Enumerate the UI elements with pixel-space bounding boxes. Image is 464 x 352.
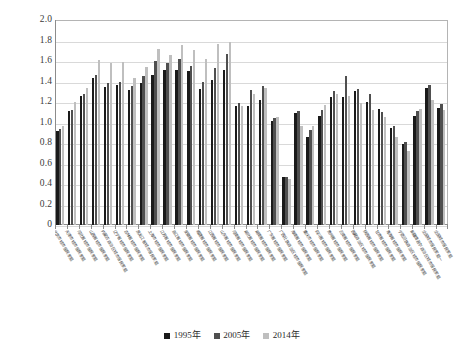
y-tick-label: 1.6 <box>6 56 52 65</box>
bar-group <box>210 20 222 225</box>
y-tick-label: 1.8 <box>6 36 52 45</box>
legend-swatch <box>214 333 220 339</box>
bar <box>86 88 88 225</box>
bar-group <box>317 20 329 225</box>
bar <box>157 49 159 225</box>
bar <box>122 62 124 225</box>
y-tick-label: 1.4 <box>6 77 52 86</box>
bar-group <box>246 20 258 225</box>
bar <box>264 88 266 225</box>
y-tick-label: 1.0 <box>6 118 52 127</box>
bar-group <box>126 20 138 225</box>
y-axis-tick-labels: 2.01.81.61.41.21.00.80.60.40.20 <box>0 0 52 352</box>
bar <box>74 102 76 225</box>
bar-group <box>365 20 377 225</box>
bar-group <box>353 20 365 225</box>
bar <box>384 117 386 225</box>
x-axis-category-labels: 北京市城市居民家庭天津市城市居民家庭河北省城市居民家庭山西省城市居民家庭内蒙古自… <box>55 229 455 324</box>
bar-group <box>400 20 412 225</box>
y-tick-label: 2.0 <box>6 15 52 24</box>
bar <box>253 94 255 225</box>
bar-group <box>293 20 305 225</box>
bar <box>324 105 326 225</box>
bar <box>288 179 290 225</box>
bar-group <box>222 20 234 225</box>
bar-group <box>79 20 91 225</box>
y-tick-label: 0 <box>6 220 52 229</box>
bar-chart: 2.01.81.61.41.21.00.80.60.40.20 北京市城市居民家… <box>0 0 464 352</box>
bar <box>312 126 314 225</box>
y-tick-label: 0.8 <box>6 138 52 147</box>
bar <box>348 96 350 225</box>
bar-group <box>174 20 186 225</box>
bar <box>407 151 409 225</box>
bar <box>229 42 231 225</box>
bar-group <box>424 20 436 225</box>
y-tick-label: 0.4 <box>6 179 52 188</box>
legend-item: 2005年 <box>214 331 251 340</box>
bar <box>193 50 195 225</box>
bar-group <box>269 20 281 225</box>
bar <box>181 45 183 225</box>
bar <box>133 78 135 225</box>
bar-group <box>55 20 67 225</box>
bar-group <box>91 20 103 225</box>
bar-group <box>388 20 400 225</box>
bar-group <box>198 20 210 225</box>
bar <box>62 126 64 225</box>
chart-legend: 1995年2005年2014年 <box>0 331 464 340</box>
legend-item: 2014年 <box>263 331 300 340</box>
bar-group <box>234 20 246 225</box>
bar <box>217 44 219 225</box>
bar <box>300 126 302 225</box>
bar-group <box>436 20 448 225</box>
bar-group <box>67 20 79 225</box>
bar <box>205 59 207 225</box>
legend-label: 2014年 <box>273 331 300 340</box>
bar <box>431 100 433 225</box>
bar <box>241 106 243 225</box>
bar <box>169 55 171 225</box>
y-tick-label: 1.2 <box>6 97 52 106</box>
bar <box>98 60 100 225</box>
bar <box>336 94 338 225</box>
bar-group <box>150 20 162 225</box>
bar <box>395 137 397 225</box>
bar <box>145 67 147 225</box>
legend-item: 1995年 <box>164 331 201 340</box>
legend-swatch <box>164 333 170 339</box>
bar <box>443 110 445 225</box>
bar-group <box>329 20 341 225</box>
bar-group <box>186 20 198 225</box>
bar-group <box>377 20 389 225</box>
bar-group <box>341 20 353 225</box>
y-tick-label: 0.6 <box>6 159 52 168</box>
bar-group <box>138 20 150 225</box>
bar <box>372 110 374 225</box>
legend-swatch <box>263 333 269 339</box>
bar <box>276 117 278 225</box>
bar-group <box>281 20 293 225</box>
legend-label: 2005年 <box>223 331 250 340</box>
bar <box>419 109 421 225</box>
bar <box>110 63 112 225</box>
bar-group <box>412 20 424 225</box>
bar <box>360 103 362 225</box>
bar-group <box>103 20 115 225</box>
bar-group <box>162 20 174 225</box>
bars-layer <box>55 20 448 225</box>
y-tick-label: 0.2 <box>6 200 52 209</box>
legend-label: 1995年 <box>174 331 201 340</box>
bar-group <box>305 20 317 225</box>
bar-group <box>257 20 269 225</box>
bar-group <box>115 20 127 225</box>
